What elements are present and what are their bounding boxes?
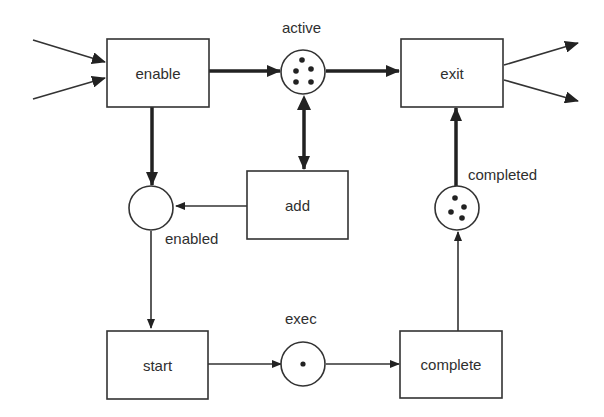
- transition-exit-label: exit: [401, 39, 503, 107]
- place-completed-label: completed: [468, 166, 537, 183]
- place-active: [281, 50, 325, 94]
- place-completed: [435, 186, 479, 230]
- arrowhead-up: [297, 95, 311, 110]
- place-enabled-label: enabled: [165, 230, 218, 247]
- transition-start-label: start: [107, 331, 208, 399]
- transition-enable-label: enable: [107, 39, 209, 107]
- place-enabled: [129, 186, 173, 230]
- transition-complete-label: complete: [400, 331, 502, 398]
- transition-add-label: add: [247, 171, 348, 239]
- place-exec: [281, 342, 325, 386]
- place-active-label: active: [282, 19, 321, 36]
- input-arc: [33, 40, 105, 99]
- output-arc: [504, 43, 578, 101]
- place-exec-label: exec: [285, 310, 317, 327]
